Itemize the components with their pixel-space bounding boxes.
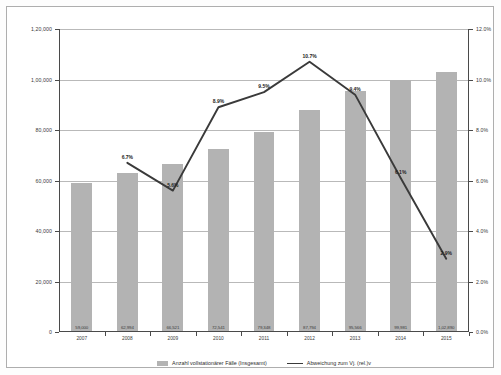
x-axis-label: 2014 [395,336,406,341]
line-value-label: 6.1% [395,169,406,175]
chart-screenshot: 020,00040,00060,00080,0001,00,0001,20,00… [0,0,501,375]
legend-item-line: Abweichung zum Vj. (rel.)v [287,360,371,366]
y-tick-label-left: 0 [49,329,52,335]
y-tick-right [469,181,473,182]
x-tick [378,332,379,336]
x-tick [150,332,151,336]
x-tick [241,332,242,336]
legend-bar-swatch-icon [157,361,168,366]
line-series [59,29,469,332]
x-tick [196,332,197,336]
y-tick-label-right: 6.0% [476,178,488,184]
legend-label-bars: Anzahl vollstationärer Fälle (Insgesamt) [172,360,267,366]
y-tick-label-left: 1,00,000 [31,77,52,83]
line-value-label: 10.7% [302,53,316,59]
x-axis-label: 2012 [304,336,315,341]
y-tick-label-right: 0.0% [476,329,488,335]
x-axis-label: 2013 [350,336,361,341]
y-tick-label-right: 8.0% [476,127,488,133]
line-value-label: 8.9% [213,98,224,104]
y-tick-label-left: 80,000 [36,127,52,133]
y-tick-right [469,231,473,232]
y-tick-label-right: 12.0% [476,26,491,32]
x-axis-label: 2008 [122,336,133,341]
plot-area: 020,00040,00060,00080,0001,00,0001,20,00… [59,29,469,332]
line-value-label: 9.4% [349,86,360,92]
y-tick-label-left: 20,000 [36,279,52,285]
axis-right-line [468,29,469,332]
line-value-label: 6.7% [122,154,133,160]
y-tick-label-left: 40,000 [36,228,52,234]
x-axis-label: 2009 [168,336,179,341]
y-tick-label-right: 10.0% [476,77,491,83]
x-tick [469,332,470,336]
line-value-label: 2.9% [441,250,452,256]
y-tick-label-left: 1,20,000 [31,26,52,32]
y-tick-label-right: 2.0% [476,279,488,285]
legend-label-line: Abweichung zum Vj. (rel.)v [307,360,371,366]
y-tick-right [469,282,473,283]
line-path [127,62,446,259]
x-tick [332,332,333,336]
axis-left-line [59,29,60,332]
x-axis-label: 2015 [441,336,452,341]
y-tick-left [55,332,59,333]
line-value-label: 9.5% [258,83,269,89]
line-value-label: 5.6% [167,182,178,188]
y-tick-right [469,29,473,30]
y-tick-label-right: 4.0% [476,228,488,234]
x-axis-label: 2007 [76,336,87,341]
legend-item-bars: Anzahl vollstationärer Fälle (Insgesamt) [157,360,267,366]
chart-frame: 020,00040,00060,00080,0001,00,0001,20,00… [6,6,494,368]
axis-bottom-line [59,331,469,332]
chart-legend: Anzahl vollstationärer Fälle (Insgesamt)… [59,360,469,366]
x-tick [423,332,424,336]
legend-line-swatch-icon [287,363,303,364]
x-tick [105,332,106,336]
x-tick [287,332,288,336]
y-tick-right [469,80,473,81]
x-axis-label: 2010 [213,336,224,341]
x-axis-label: 2011 [259,336,269,341]
y-tick-right [469,130,473,131]
y-tick-label-left: 60,000 [36,178,52,184]
